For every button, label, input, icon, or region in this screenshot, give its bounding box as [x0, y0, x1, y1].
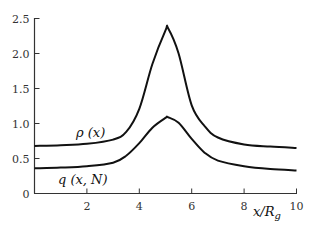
y-tick-label: 1.0: [12, 118, 30, 131]
x-tick-label: 8: [241, 200, 248, 213]
x-tick-label: 2: [83, 200, 90, 213]
x-axis-title: x/Rg: [253, 204, 281, 221]
x-tick-label: 4: [136, 200, 143, 213]
q-curve: [35, 117, 297, 171]
x-tick-label: 10: [290, 200, 304, 213]
curves: [35, 26, 297, 171]
y-tick-label: 2.0: [12, 48, 30, 61]
y-ticks: 00.51.01.52.02.5: [12, 13, 40, 201]
y-tick-label: 0: [23, 188, 30, 201]
y-tick-label: 1.5: [12, 83, 30, 96]
axes: 00.51.01.52.02.5 246810: [12, 13, 304, 213]
x-tick-label: 6: [188, 200, 195, 213]
x-axis-title-main: x/R: [253, 204, 275, 219]
rho-curve: [35, 26, 297, 148]
rho-label: ρ (x): [75, 125, 105, 140]
q-label: q (x, N): [58, 172, 108, 187]
x-axis-title-subscript: g: [275, 210, 281, 221]
line-chart: 00.51.01.52.02.5 246810 ρ (x) q (x, N) x…: [0, 0, 316, 235]
y-tick-label: 2.5: [12, 13, 30, 26]
y-tick-label: 0.5: [12, 153, 30, 166]
